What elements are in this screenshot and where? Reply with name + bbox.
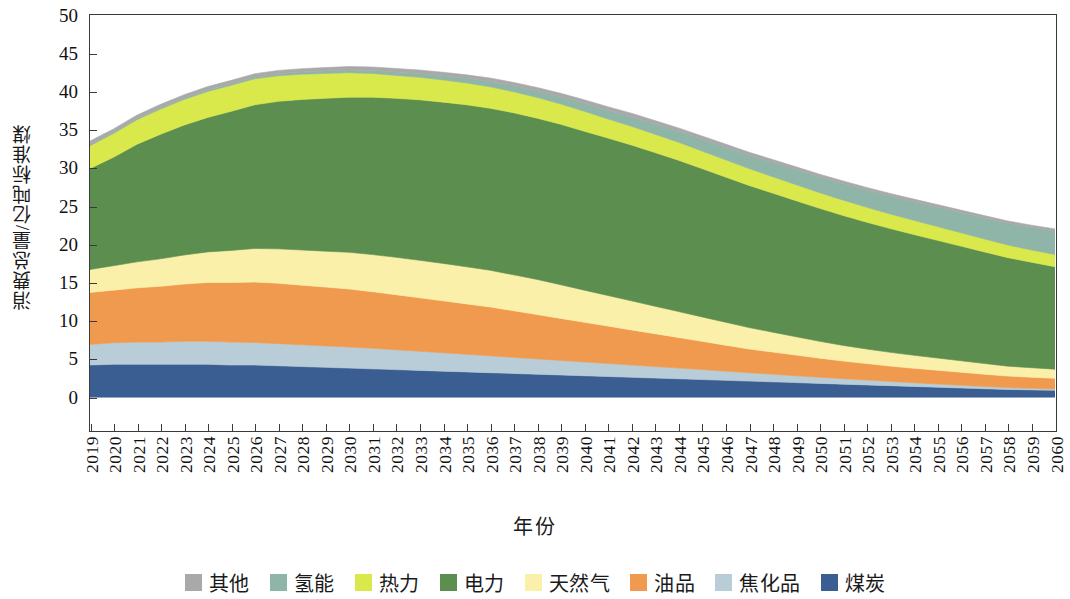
x-tick-label-2038: 2038 [529, 436, 550, 473]
x-tick-label-2051: 2051 [835, 436, 856, 473]
x-tick-label-2046: 2046 [717, 436, 738, 473]
y-tick-mark-0 [89, 398, 97, 399]
x-tick-mark-2037 [514, 424, 515, 432]
x-tick-label-2022: 2022 [152, 436, 173, 473]
x-tick-label-2054: 2054 [905, 436, 926, 473]
legend-swatch-icon [185, 574, 202, 591]
x-tick-label-2019: 2019 [82, 436, 103, 473]
x-tick-label-2058: 2058 [999, 436, 1020, 473]
x-tick-label-2048: 2048 [764, 436, 785, 473]
legend-item-天然气[interactable]: 天然气 [525, 568, 611, 597]
x-tick-mark-2021 [138, 424, 139, 432]
x-tick-mark-2048 [773, 424, 774, 432]
x-tick-mark-2056 [961, 424, 962, 432]
x-tick-mark-2040 [585, 424, 586, 432]
x-tick-mark-2028 [302, 424, 303, 432]
legend-item-焦化品[interactable]: 焦化品 [715, 568, 801, 597]
x-tick-label-2052: 2052 [858, 436, 879, 473]
x-tick-mark-2024 [208, 424, 209, 432]
legend-swatch-icon [821, 574, 838, 591]
legend-label: 油品 [654, 568, 695, 597]
x-tick-label-2030: 2030 [340, 436, 361, 473]
legend-label: 热力 [379, 568, 420, 597]
x-tick-label-2020: 2020 [105, 436, 126, 473]
x-tick-mark-2035 [467, 424, 468, 432]
y-tick-label-15: 15 [59, 272, 78, 294]
legend-item-电力[interactable]: 电力 [440, 568, 505, 597]
y-tick-mark-45 [89, 54, 97, 55]
x-tick-mark-2033 [420, 424, 421, 432]
y-tick-label-5: 5 [69, 348, 79, 370]
x-tick-mark-2059 [1032, 424, 1033, 432]
x-tick-label-2045: 2045 [693, 436, 714, 473]
x-tick-label-2028: 2028 [293, 436, 314, 473]
x-tick-mark-2054 [914, 424, 915, 432]
y-tick-mark-20 [89, 245, 97, 246]
y-tick-label-35: 35 [59, 119, 78, 141]
x-tick-label-2033: 2033 [411, 436, 432, 473]
x-tick-mark-2058 [1008, 424, 1009, 432]
x-tick-mark-2050 [820, 424, 821, 432]
legend-item-油品[interactable]: 油品 [630, 568, 695, 597]
x-tick-label-2053: 2053 [882, 436, 903, 473]
x-tick-label-2057: 2057 [976, 436, 997, 473]
x-tick-mark-2038 [538, 424, 539, 432]
stacked-area-chart: 消费总量/亿吨标准煤 05101520253035404550 20192020… [0, 0, 1070, 599]
x-tick-label-2021: 2021 [129, 436, 150, 473]
x-tick-mark-2060 [1056, 424, 1057, 432]
x-tick-label-2026: 2026 [246, 436, 267, 473]
x-tick-label-2031: 2031 [364, 436, 385, 473]
y-tick-mark-10 [89, 321, 97, 322]
x-tick-label-2055: 2055 [929, 436, 950, 473]
x-tick-mark-2023 [185, 424, 186, 432]
legend-label: 其他 [209, 568, 250, 597]
legend-item-氢能[interactable]: 氢能 [270, 568, 335, 597]
x-tick-mark-2052 [867, 424, 868, 432]
x-tick-label-2041: 2041 [599, 436, 620, 473]
legend-item-其他[interactable]: 其他 [185, 568, 250, 597]
x-tick-mark-2026 [255, 424, 256, 432]
x-tick-mark-2034 [444, 424, 445, 432]
y-tick-label-50: 50 [59, 5, 78, 27]
x-tick-label-2040: 2040 [576, 436, 597, 473]
x-tick-label-2034: 2034 [435, 436, 456, 473]
x-tick-label-2049: 2049 [788, 436, 809, 473]
legend-item-煤炭[interactable]: 煤炭 [821, 568, 886, 597]
x-tick-label-2032: 2032 [387, 436, 408, 473]
x-tick-mark-2029 [326, 424, 327, 432]
y-tick-label-40: 40 [59, 81, 78, 103]
x-tick-label-2047: 2047 [741, 436, 762, 473]
x-tick-mark-2031 [373, 424, 374, 432]
x-tick-label-2059: 2059 [1023, 436, 1044, 473]
x-tick-mark-2039 [561, 424, 562, 432]
y-tick-label-45: 45 [59, 43, 78, 65]
y-tick-mark-35 [89, 130, 97, 131]
x-axis-title: 年份 [0, 511, 1070, 540]
y-tick-mark-40 [89, 92, 97, 93]
legend-swatch-icon [630, 574, 647, 591]
x-tick-mark-2053 [891, 424, 892, 432]
x-tick-mark-2051 [844, 424, 845, 432]
x-tick-mark-2047 [750, 424, 751, 432]
x-tick-label-2036: 2036 [482, 436, 503, 473]
x-tick-mark-2042 [632, 424, 633, 432]
x-tick-label-2023: 2023 [176, 436, 197, 473]
x-tick-label-2029: 2029 [317, 436, 338, 473]
y-tick-mark-5 [89, 359, 97, 360]
x-tick-label-2056: 2056 [952, 436, 973, 473]
y-axis-tick-labels: 05101520253035404550 [36, 0, 84, 599]
legend-swatch-icon [715, 574, 732, 591]
legend-label: 氢能 [294, 568, 335, 597]
legend-swatch-icon [270, 574, 287, 591]
legend-item-热力[interactable]: 热力 [355, 568, 420, 597]
x-tick-mark-2030 [349, 424, 350, 432]
x-tick-mark-2036 [491, 424, 492, 432]
y-tick-label-10: 10 [59, 310, 78, 332]
legend-swatch-icon [525, 574, 542, 591]
x-tick-mark-2022 [161, 424, 162, 432]
y-tick-mark-15 [89, 283, 97, 284]
x-tick-label-2025: 2025 [223, 436, 244, 473]
y-tick-mark-30 [89, 168, 97, 169]
x-axis-tick-labels: 2019202020212022202320242025202620272028… [0, 436, 1070, 508]
legend-swatch-icon [440, 574, 457, 591]
